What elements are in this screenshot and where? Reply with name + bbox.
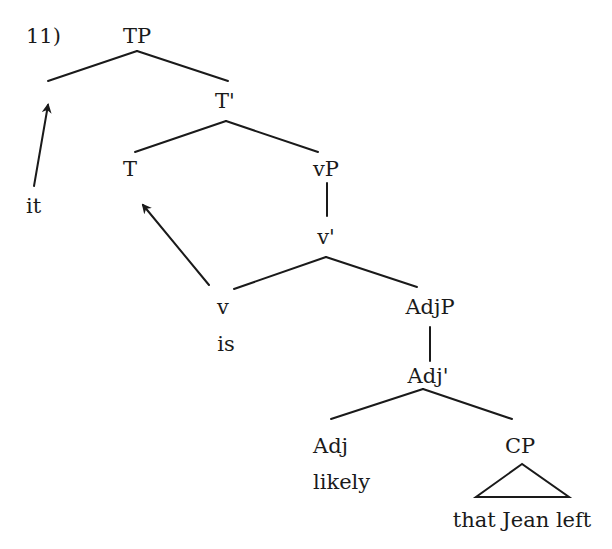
word-likely: likely — [313, 472, 370, 493]
node-adj-bar: Adj' — [408, 366, 449, 387]
cp-yield-text: that Jean left — [453, 510, 592, 531]
branch-vbar-adjp — [326, 257, 417, 287]
word-is: is — [217, 334, 235, 355]
branch-tp-spec — [48, 51, 137, 81]
arrow-v-to-t-movement-icon — [143, 205, 209, 285]
node-t: T — [123, 159, 137, 180]
branch-adjbar-cp — [423, 389, 512, 419]
node-tp: TP — [123, 26, 151, 47]
node-v: v — [217, 297, 229, 318]
arrow-it-movement-icon — [34, 105, 48, 186]
node-spec-it: it — [26, 196, 41, 217]
node-adj: Adj — [313, 436, 348, 457]
tree-branches — [0, 0, 612, 549]
example-number: 11) — [26, 26, 61, 47]
branch-tp-tbar — [137, 51, 228, 81]
branch-adjbar-adj — [331, 389, 423, 419]
node-adjp: AdjP — [405, 297, 454, 318]
branch-tbar-vp — [226, 121, 318, 152]
branch-vbar-v — [234, 257, 326, 289]
node-t-bar: T' — [215, 91, 235, 112]
node-vp: vP — [313, 159, 339, 180]
node-cp: CP — [505, 436, 535, 457]
syntax-tree-diagram: 11) TP T' it T vP v' v is AdjP Adj' Adj … — [0, 0, 612, 549]
branch-tbar-t — [135, 121, 226, 152]
node-v-bar: v' — [317, 227, 335, 248]
cp-triangle — [476, 464, 569, 497]
